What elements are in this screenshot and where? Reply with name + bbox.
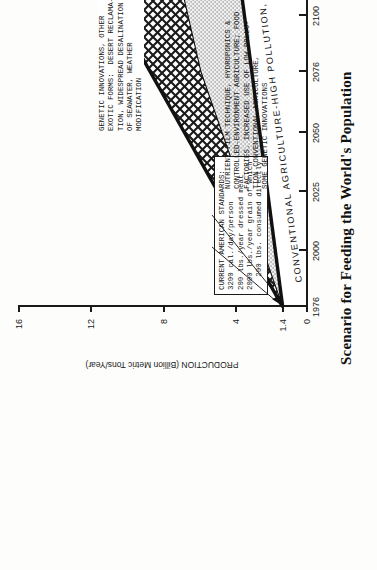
x-tick-label: 2025 bbox=[311, 182, 321, 202]
y-tick-label: 16 bbox=[14, 319, 24, 329]
y-tick-label: 4 bbox=[231, 319, 241, 324]
y-tick bbox=[163, 305, 165, 312]
y-tick-label: 1.4 bbox=[278, 319, 288, 332]
exotic-technology-note: GENETIC INNOVATIONS, OTHER EXOTIC FORMS:… bbox=[98, 0, 144, 131]
figure-page: Scenario for Feeding the World's Populat… bbox=[0, 0, 377, 570]
x-tick bbox=[299, 249, 306, 251]
x-tick bbox=[299, 190, 306, 192]
page-title: Scenario for Feeding the World's Populat… bbox=[338, 0, 355, 365]
x-tick bbox=[299, 305, 306, 307]
y-tick-label: 8 bbox=[159, 319, 169, 324]
rotated-figure-canvas: Scenario for Feeding the World's Populat… bbox=[0, 0, 377, 377]
x-tick bbox=[299, 131, 306, 133]
y-tick-label: 0 bbox=[302, 319, 312, 324]
y-tick bbox=[306, 305, 308, 312]
y-tick bbox=[235, 305, 237, 312]
x-tick-label: 2000 bbox=[311, 241, 321, 261]
x-tick-label: 2100 bbox=[311, 6, 321, 26]
y-tick-label: 12 bbox=[86, 319, 96, 329]
x-tick-label: 2076 bbox=[311, 62, 321, 82]
y-tick bbox=[282, 305, 284, 312]
x-tick-label: 1976 bbox=[311, 297, 321, 317]
y-tick bbox=[90, 305, 92, 312]
x-axis bbox=[306, 0, 308, 307]
y-axis-title: PRODUCTION (Billion Metric Tons/Year) bbox=[85, 360, 238, 370]
x-tick bbox=[299, 14, 306, 16]
y-tick bbox=[18, 305, 20, 312]
plot-area: 1976 2000 2025 2050 2076 2100 2125 2150 … bbox=[18, 0, 306, 307]
x-tick bbox=[299, 70, 306, 72]
figure-body: Scenario for Feeding the World's Populat… bbox=[0, 0, 377, 377]
x-tick-label: 2050 bbox=[311, 123, 321, 143]
